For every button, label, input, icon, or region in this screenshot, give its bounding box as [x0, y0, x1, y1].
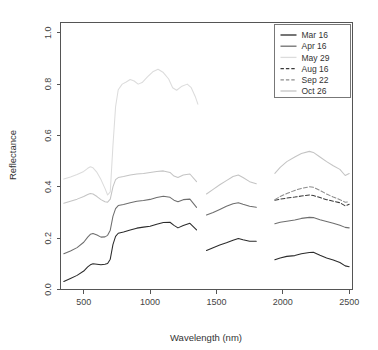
series-line-apr-16 — [64, 196, 197, 254]
legend-label-apr-16[interactable]: Apr 16 — [302, 41, 327, 51]
x-tick-label: 500 — [76, 297, 91, 307]
legend-label-may-29[interactable]: May 29 — [302, 53, 330, 63]
series-line-mar-16 — [64, 222, 197, 281]
y-tick-label: 0.6 — [43, 129, 53, 142]
x-tick-label: 1000 — [140, 297, 160, 307]
y-tick-label: 0.2 — [43, 232, 53, 245]
series-line-aug-16 — [275, 195, 349, 206]
legend-label-mar-16[interactable]: Mar 16 — [302, 30, 329, 40]
series-line-apr-16 — [207, 203, 257, 215]
series-group — [64, 69, 349, 281]
y-tick-label: 0.8 — [43, 78, 53, 91]
spectral-reflectance-figure: 50010001500200025000.00.20.40.60.81.0 Ma… — [0, 0, 378, 350]
series-line-oct-26 — [64, 171, 197, 203]
legend-label-oct-26[interactable]: Oct 26 — [302, 86, 327, 96]
legend-label-aug-16[interactable]: Aug 16 — [302, 64, 329, 74]
x-axis-title: Wavelength (nm) — [170, 332, 242, 343]
series-line-mar-16 — [275, 252, 349, 266]
series-line-mar-16 — [207, 238, 257, 250]
series-line-oct-26 — [207, 175, 257, 194]
y-axis-title: Reflectance — [7, 130, 18, 180]
x-tick-label: 2000 — [273, 297, 293, 307]
plot-canvas: 50010001500200025000.00.20.40.60.81.0 Ma… — [0, 0, 378, 350]
series-line-apr-16 — [275, 217, 349, 228]
y-tick-label: 0.0 — [43, 283, 53, 296]
series-line-sep-22 — [275, 187, 349, 202]
series-line-may-29 — [64, 69, 198, 195]
y-tick-label: 0.4 — [43, 181, 53, 194]
x-tick-label: 2500 — [339, 297, 359, 307]
series-line-oct-26 — [275, 151, 349, 175]
legend[interactable]: Mar 16Apr 16May 29Aug 16Sep 22Oct 26 — [275, 25, 351, 98]
y-tick-label: 1.0 — [43, 27, 53, 40]
x-tick-label: 1500 — [206, 297, 226, 307]
legend-label-sep-22[interactable]: Sep 22 — [302, 75, 329, 85]
